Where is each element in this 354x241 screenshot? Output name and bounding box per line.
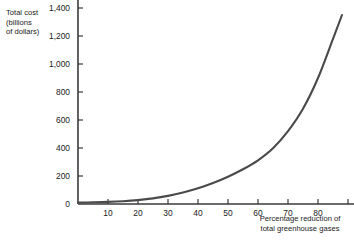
y-axis-tick-label: 800: [28, 87, 70, 97]
x-axis-tick-label: 40: [186, 208, 210, 218]
x-axis-tick-label: 50: [216, 208, 240, 218]
y-axis-tick-label: 1,000: [28, 59, 70, 69]
y-axis-tick-label: 0: [28, 199, 70, 209]
cost-curve: [78, 15, 342, 203]
y-axis-tick-label: 400: [28, 143, 70, 153]
x-axis-title: Percentage reduction of total greenhouse…: [246, 214, 354, 233]
y-axis-tick-label: 600: [28, 115, 70, 125]
x-axis-tick-label: 10: [96, 208, 120, 218]
y-axis-tick-label: 1,200: [28, 31, 70, 41]
x-axis-tick-label: 20: [126, 208, 150, 218]
y-axis-tick-label: 1,400: [28, 3, 70, 13]
y-axis-tick-label: 200: [28, 171, 70, 181]
chart-container: Total cost (billions of dollars) 0200400…: [0, 0, 354, 241]
x-axis-tick-label: 30: [156, 208, 180, 218]
